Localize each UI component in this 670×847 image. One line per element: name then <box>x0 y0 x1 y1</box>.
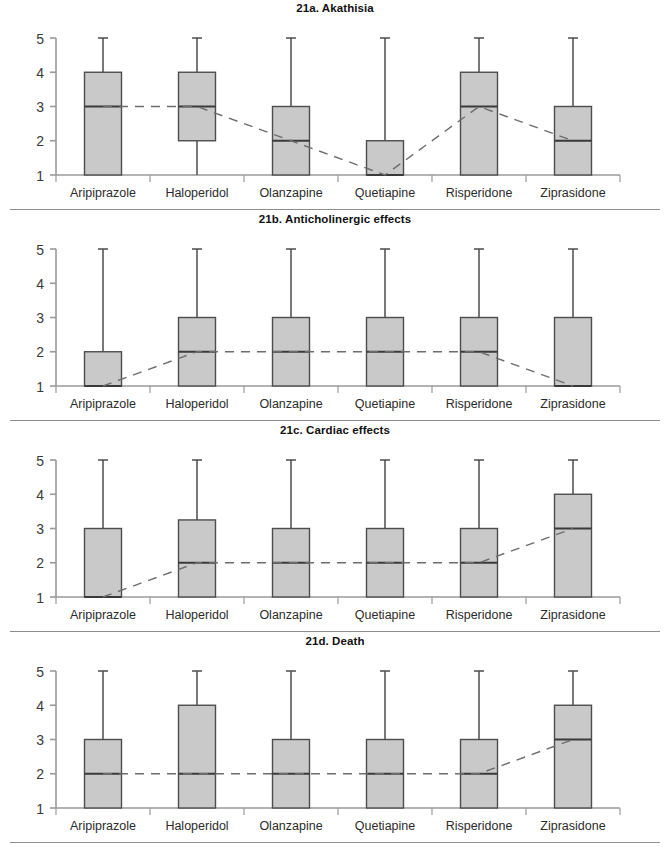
box-plot-item <box>85 671 122 808</box>
x-tick-label: Quetiapine <box>355 819 416 833</box>
box-plot-item <box>461 249 498 386</box>
x-tick-label: Ziprasidone <box>540 819 605 833</box>
box-plot-svg: 12345AripiprazoleHaloperidolOlanzapineQu… <box>0 0 670 211</box>
y-tick-label: 4 <box>36 276 44 292</box>
x-tick-label: Haloperidol <box>165 608 228 622</box>
x-tick-label: Aripiprazole <box>70 186 136 200</box>
box-plot-item <box>555 671 592 808</box>
box-plot-item <box>555 38 592 175</box>
box-rect <box>85 72 122 175</box>
box-rect <box>85 352 122 386</box>
box-rect <box>85 529 122 598</box>
y-tick-label: 1 <box>36 379 44 395</box>
boxplot-figure: 21a. Akathisia 12345AripiprazoleHaloperi… <box>0 0 670 847</box>
y-tick-label: 3 <box>36 310 44 326</box>
box-plot-item <box>273 671 310 808</box>
y-tick-label: 1 <box>36 590 44 606</box>
box-plot-item <box>461 460 498 597</box>
box-plot-item <box>85 460 122 597</box>
x-tick-label: Aripiprazole <box>70 608 136 622</box>
box-plot-item <box>273 249 310 386</box>
x-tick-label: Ziprasidone <box>540 397 605 411</box>
y-tick-label: 1 <box>36 168 44 184</box>
plot-area-21b: 12345AripiprazoleHaloperidolOlanzapineQu… <box>0 211 670 422</box>
plot-area-21c: 12345AripiprazoleHaloperidolOlanzapineQu… <box>0 422 670 633</box>
x-tick-label: Haloperidol <box>165 397 228 411</box>
panel-21b: 21b. Anticholinergic effects 12345Aripip… <box>0 211 670 422</box>
y-tick-label: 2 <box>36 133 44 149</box>
y-tick-label: 5 <box>36 242 44 258</box>
x-tick-label: Ziprasidone <box>540 608 605 622</box>
box-rect <box>555 705 592 808</box>
panel-separator <box>10 209 660 210</box>
box-rect <box>555 494 592 597</box>
y-tick-label: 4 <box>36 698 44 714</box>
y-tick-label: 2 <box>36 766 44 782</box>
x-tick-label: Ziprasidone <box>540 186 605 200</box>
box-plot-item <box>367 671 404 808</box>
box-plot-svg: 12345AripiprazoleHaloperidolOlanzapineQu… <box>0 211 670 422</box>
panel-21d: 21d. Death 12345AripiprazoleHaloperidolO… <box>0 633 670 844</box>
y-tick-label: 2 <box>36 344 44 360</box>
box-plot-item <box>179 671 216 808</box>
box-plot-item <box>367 460 404 597</box>
x-tick-label: Aripiprazole <box>70 819 136 833</box>
x-tick-label: Quetiapine <box>355 608 416 622</box>
box-plot-item <box>461 38 498 175</box>
box-plot-svg: 12345AripiprazoleHaloperidolOlanzapineQu… <box>0 633 670 844</box>
x-tick-label: Risperidone <box>446 186 513 200</box>
x-tick-label: Olanzapine <box>259 819 322 833</box>
box-plot-item <box>555 249 592 386</box>
x-tick-label: Quetiapine <box>355 186 416 200</box>
median-trend-dashed-line <box>103 352 573 386</box>
box-rect <box>461 72 498 175</box>
x-tick-label: Olanzapine <box>259 608 322 622</box>
median-trend-dashed-line <box>103 740 573 774</box>
panel-separator <box>10 631 660 632</box>
box-plot-item <box>367 249 404 386</box>
box-rect <box>179 705 216 808</box>
box-plot-item <box>85 249 122 386</box>
x-tick-label: Haloperidol <box>165 819 228 833</box>
x-tick-label: Olanzapine <box>259 186 322 200</box>
x-tick-label: Aripiprazole <box>70 397 136 411</box>
y-tick-label: 3 <box>36 732 44 748</box>
y-tick-label: 4 <box>36 65 44 81</box>
panel-separator <box>10 842 660 843</box>
y-tick-label: 1 <box>36 801 44 817</box>
plot-area-21d: 12345AripiprazoleHaloperidolOlanzapineQu… <box>0 633 670 844</box>
panel-separator <box>10 420 660 421</box>
box-plot-svg: 12345AripiprazoleHaloperidolOlanzapineQu… <box>0 422 670 633</box>
y-tick-label: 5 <box>36 453 44 469</box>
y-tick-label: 3 <box>36 99 44 115</box>
x-tick-label: Risperidone <box>446 608 513 622</box>
median-trend-dashed-line <box>103 529 573 598</box>
y-tick-label: 3 <box>36 521 44 537</box>
x-tick-label: Haloperidol <box>165 186 228 200</box>
box-plot-item <box>367 38 404 175</box>
plot-area-21a: 12345AripiprazoleHaloperidolOlanzapineQu… <box>0 0 670 211</box>
box-plot-item <box>179 249 216 386</box>
box-plot-item <box>461 671 498 808</box>
median-trend-dashed-line <box>103 107 573 176</box>
panel-21a: 21a. Akathisia 12345AripiprazoleHaloperi… <box>0 0 670 211</box>
y-tick-label: 4 <box>36 487 44 503</box>
box-rect <box>555 318 592 387</box>
y-tick-label: 2 <box>36 555 44 571</box>
x-tick-label: Olanzapine <box>259 397 322 411</box>
x-tick-label: Risperidone <box>446 819 513 833</box>
box-plot-item <box>273 460 310 597</box>
box-plot-item <box>179 460 216 597</box>
x-tick-label: Quetiapine <box>355 397 416 411</box>
box-plot-item <box>273 38 310 175</box>
x-tick-label: Risperidone <box>446 397 513 411</box>
box-rect <box>179 520 216 597</box>
y-tick-label: 5 <box>36 31 44 47</box>
panel-21c: 21c. Cardiac effects 12345AripiprazoleHa… <box>0 422 670 633</box>
y-tick-label: 5 <box>36 664 44 680</box>
